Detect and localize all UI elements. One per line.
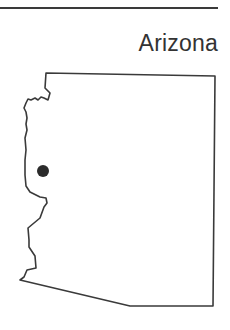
state-outline — [20, 73, 215, 306]
location-marker — [37, 165, 49, 177]
state-map — [0, 0, 230, 330]
